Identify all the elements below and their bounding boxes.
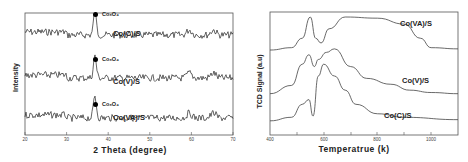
x-tick: 60	[189, 137, 194, 142]
x-tick: 600	[320, 137, 328, 142]
tpr-trace	[270, 49, 458, 94]
x-tick: 40	[106, 137, 111, 142]
x-tick: 800	[373, 137, 381, 142]
series-label-co-v: Co(V)/S	[113, 77, 140, 86]
peak-marker-icon	[93, 12, 98, 17]
x-tick: 20	[22, 137, 27, 142]
x-axis-label: 2 Theta (degree)	[70, 145, 190, 155]
peak-label: Co₃O₄	[102, 11, 119, 17]
series-label-co-v: Co(V)/S	[402, 76, 429, 85]
x-axis-label: Temperatrue (k)	[304, 144, 404, 154]
series-label-co-va: Co(VA)/S	[400, 19, 432, 28]
y-axis-label: Intensity	[12, 53, 19, 103]
peak-label: Co₃O₄	[102, 56, 119, 62]
peak-label: Co₃O₄	[102, 101, 119, 107]
x-tick: 30	[64, 137, 69, 142]
tpr-chart: Co(VA)/S Co(V)/S Co(C)/S TCD Signal (a.u…	[234, 0, 468, 162]
x-tick: 400	[266, 137, 274, 142]
y-axis-label: TCD Signal (a.u)	[256, 42, 263, 122]
series-label-co-c: Co(C)/S	[113, 29, 141, 38]
x-tick: 50	[147, 137, 152, 142]
peak-marker-icon	[93, 102, 98, 107]
x-tick: 1000	[426, 137, 436, 142]
series-label-co-va: Co(VA)/S	[113, 113, 145, 122]
xrd-chart: Co₃O₄ Co₃O₄ Co₃O₄ Co(C)/S Co(V)/S Co(VA)…	[0, 0, 234, 162]
peak-marker-icon	[93, 57, 98, 62]
series-label-co-c: Co(C)/S	[384, 111, 412, 120]
